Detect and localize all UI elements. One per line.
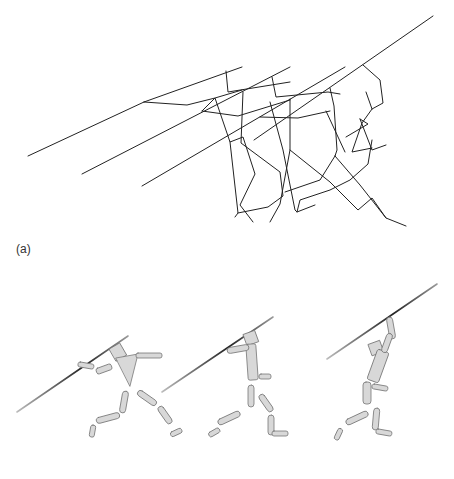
mannequin-rendering [0,250,454,450]
panel-b-mannequins: (b) [0,250,454,450]
panel-a-stick-figures: (a) [0,0,454,245]
stick-figure-drawing [0,0,454,245]
